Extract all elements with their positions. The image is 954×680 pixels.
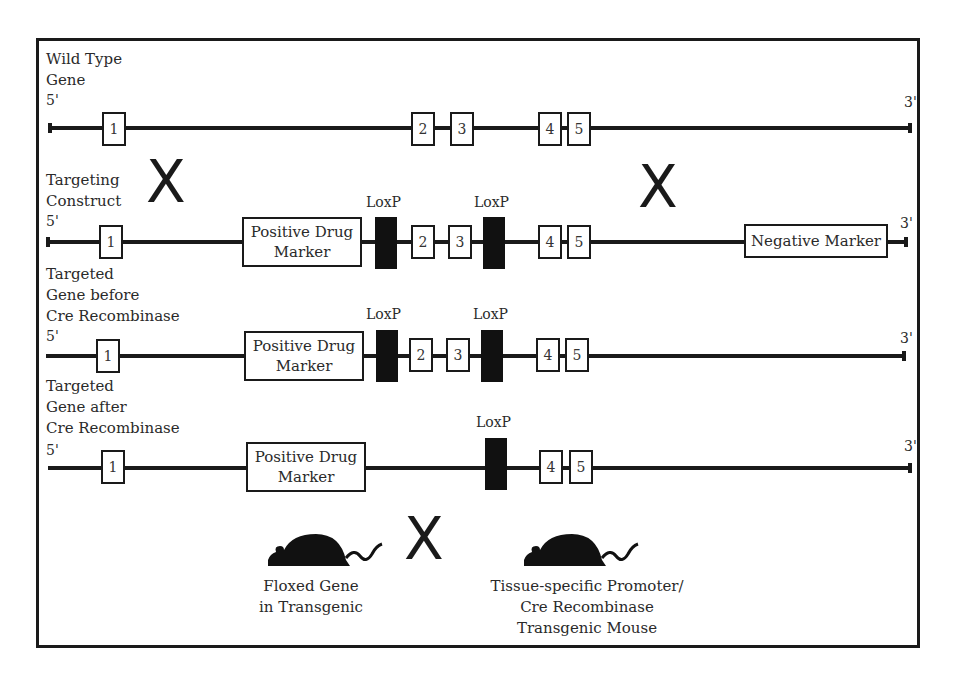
exon-4: 4 bbox=[538, 225, 562, 259]
row-label-line: Cre Recombinase bbox=[46, 306, 180, 327]
exon-1: 1 bbox=[101, 450, 125, 484]
positive-drug-marker: Positive Drug Marker bbox=[246, 442, 366, 492]
crossover-x-left: X bbox=[146, 153, 186, 211]
exon-4: 4 bbox=[538, 112, 562, 146]
exon-4: 4 bbox=[539, 450, 563, 484]
row-label-line: Targeting bbox=[46, 170, 120, 191]
exon-1: 1 bbox=[96, 339, 120, 373]
three-prime-label: 3' bbox=[904, 94, 917, 110]
row-label-line: Targeted bbox=[46, 264, 114, 285]
exon-1: 1 bbox=[99, 225, 123, 259]
loxp-label: LoxP bbox=[474, 194, 509, 210]
mouse-caption-line: Cre Recombinase bbox=[482, 597, 692, 618]
mouse-icon bbox=[266, 530, 386, 570]
negative-marker: Negative Marker bbox=[744, 224, 888, 258]
gene-line bbox=[48, 466, 910, 470]
mouse-caption-line: in Transgenic bbox=[256, 597, 366, 618]
row-label-line: Wild Type bbox=[46, 49, 122, 70]
loxp-label: LoxP bbox=[366, 194, 401, 210]
exon-2: 2 bbox=[411, 112, 435, 146]
row-label-line: Cre Recombinase bbox=[46, 418, 180, 439]
exon-3: 3 bbox=[450, 112, 474, 146]
positive-drug-marker: Positive Drug Marker bbox=[244, 331, 364, 381]
crossover-x-right: X bbox=[638, 158, 678, 216]
loxp-site bbox=[483, 217, 505, 269]
exon-2: 2 bbox=[409, 338, 433, 372]
five-prime-label: 5' bbox=[46, 92, 59, 108]
loxp-site bbox=[485, 438, 507, 490]
exon-4: 4 bbox=[536, 338, 560, 372]
exon-5: 5 bbox=[567, 112, 591, 146]
three-prime-label: 3' bbox=[904, 438, 917, 454]
gene-line bbox=[48, 126, 910, 130]
loxp-label: LoxP bbox=[473, 306, 508, 322]
loxp-site bbox=[481, 330, 503, 382]
exon-5: 5 bbox=[567, 225, 591, 259]
loxp-site bbox=[376, 330, 398, 382]
gene-line bbox=[46, 354, 906, 358]
five-prime-label: 5' bbox=[46, 442, 59, 458]
mouse-caption-line: Floxed Gene bbox=[256, 576, 366, 597]
five-prime-label: 5' bbox=[46, 328, 59, 344]
exon-3: 3 bbox=[448, 225, 472, 259]
row-label-line: Gene before bbox=[46, 285, 139, 306]
crossover-x-mice: X bbox=[404, 510, 444, 568]
exon-3: 3 bbox=[446, 338, 470, 372]
row-label-line: Targeted bbox=[46, 376, 114, 397]
mouse-icon bbox=[522, 530, 642, 570]
three-prime-endcap bbox=[904, 237, 908, 247]
row-label-line: Gene after bbox=[46, 397, 127, 418]
three-prime-endcap bbox=[908, 123, 912, 133]
mouse-caption-line: Tissue-specific Promoter/ bbox=[482, 576, 692, 597]
positive-drug-marker: Positive Drug Marker bbox=[242, 217, 362, 267]
three-prime-endcap bbox=[902, 351, 906, 361]
row-label-line: Construct bbox=[46, 191, 121, 212]
exon-2: 2 bbox=[411, 225, 435, 259]
row-label-line: Gene bbox=[46, 70, 85, 91]
mouse-caption-line: Transgenic Mouse bbox=[482, 618, 692, 639]
loxp-site bbox=[375, 217, 397, 269]
five-prime-label: 5' bbox=[46, 213, 59, 229]
exon-5: 5 bbox=[569, 450, 593, 484]
three-prime-label: 3' bbox=[900, 215, 913, 231]
loxp-label: LoxP bbox=[366, 306, 401, 322]
three-prime-endcap bbox=[908, 463, 912, 473]
exon-1: 1 bbox=[102, 112, 126, 146]
three-prime-label: 3' bbox=[900, 330, 913, 346]
loxp-label: LoxP bbox=[476, 414, 511, 430]
exon-5: 5 bbox=[565, 338, 589, 372]
